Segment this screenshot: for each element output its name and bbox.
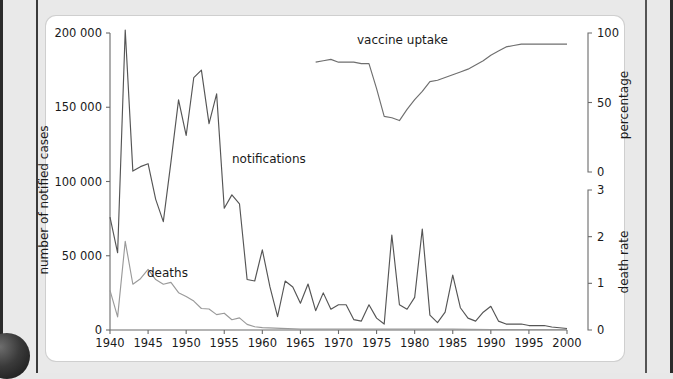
y-deathrate-tick-label: 0 [597,323,604,337]
x-tick-label: 1940 [95,336,124,350]
y-left-tick-label: 150 000 [54,100,102,114]
x-tick-label: 1975 [362,336,391,350]
x-tick-label: 1960 [248,336,277,350]
series-label-notifications: notifications [232,152,306,166]
y-left-tick-label: 100 000 [54,175,102,189]
x-tick-label: 1990 [476,336,505,350]
y-left-tick-label: 0 [95,323,102,337]
y-percentage-tick-label: 100 [597,26,619,40]
y-axis-title-death-rate: death rate [617,231,631,294]
y-percentage-tick-label: 0 [597,165,604,179]
x-tick-label: 1945 [133,336,162,350]
series-line-vaccine-uptake [316,44,567,120]
y-axis-title-notified-cases: number of notified cases [37,125,51,274]
series-line-deaths [110,241,567,329]
x-tick-label: 1995 [514,336,543,350]
y-percentage-tick-label: 50 [597,96,612,110]
x-tick-label: 2000 [552,336,581,350]
y-deathrate-tick-label: 3 [597,183,604,197]
series-line-notifications [110,30,567,328]
x-tick-label: 1955 [210,336,239,350]
x-tick-label: 1950 [172,336,201,350]
y-left-tick-label: 50 000 [62,249,102,263]
y-deathrate-tick-label: 1 [597,276,604,290]
series-label-vaccine-uptake: vaccine uptake [357,33,448,47]
x-tick-label: 1980 [400,336,429,350]
y-deathrate-tick-label: 2 [597,230,604,244]
x-tick-label: 1985 [438,336,467,350]
series-label-deaths: deaths [147,266,188,280]
x-tick-label: 1965 [286,336,315,350]
y-left-tick-label: 200 000 [54,26,102,40]
x-tick-label: 1970 [324,336,353,350]
y-axis-title-percentage: percentage [617,71,631,139]
